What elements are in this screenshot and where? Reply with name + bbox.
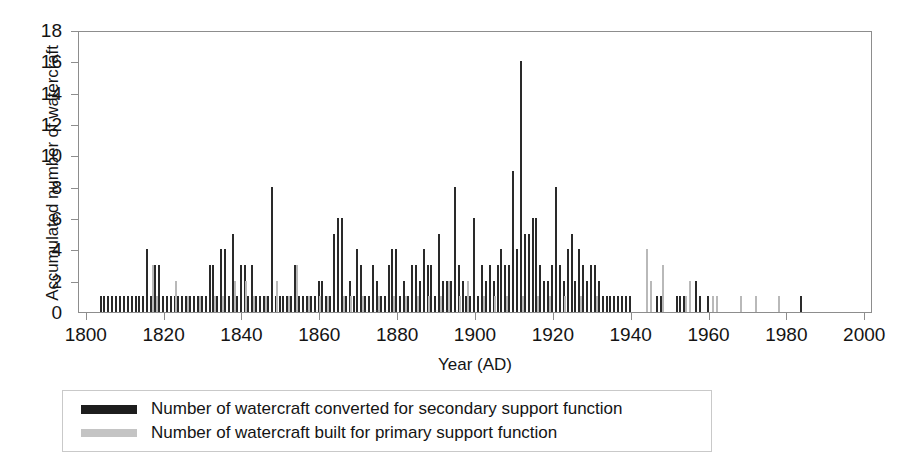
- bar-secondary-1889: [434, 296, 436, 312]
- bar-secondary-1868: [353, 296, 355, 312]
- bar-secondary-1855: [302, 296, 304, 312]
- bar-primary-1961: [712, 296, 714, 312]
- legend-label: Number of watercraft converted for secon…: [151, 399, 623, 419]
- y-axis-tick-mark: [71, 156, 78, 157]
- chart-legend: Number of watercraft converted for secon…: [62, 390, 712, 452]
- x-axis-tick-label: 1860: [279, 324, 359, 346]
- y-axis-tick-label: 10: [26, 146, 62, 165]
- bar-secondary-1852: [290, 296, 292, 312]
- bar-secondary-1824: [181, 296, 183, 312]
- x-axis-tick-mark: [475, 313, 476, 320]
- bar-secondary-1844: [259, 296, 261, 312]
- x-axis-tick-mark: [864, 313, 865, 320]
- bar-secondary-1814: [142, 296, 144, 312]
- bar-secondary-1934: [609, 296, 611, 312]
- bar-secondary-1827: [193, 296, 195, 312]
- bar-secondary-1903: [489, 265, 491, 312]
- y-axis-tick-label: 8: [26, 178, 62, 197]
- y-axis-tick-mark: [71, 62, 78, 63]
- bar-secondary-1864: [337, 218, 339, 312]
- watercraft-bar-chart: Accumulated number of watercraft 1816141…: [0, 0, 905, 454]
- bar-secondary-1876: [384, 296, 386, 312]
- bar-secondary-1839: [240, 265, 242, 312]
- x-axis-tick-mark: [241, 313, 242, 320]
- bar-secondary-1826: [189, 296, 191, 312]
- bar-secondary-1833: [216, 296, 218, 312]
- bar-secondary-1939: [629, 296, 631, 312]
- bar-secondary-1935: [613, 296, 615, 312]
- x-axis-tick-label: 1800: [46, 324, 126, 346]
- bar-secondary-1885: [419, 281, 421, 312]
- bar-primary-1972: [755, 296, 757, 312]
- bar-secondary-1983: [800, 296, 802, 312]
- bar-primary-1948: [662, 265, 664, 312]
- bar-secondary-1946: [656, 296, 658, 312]
- bar-secondary-1936: [617, 296, 619, 312]
- bar-secondary-1857: [310, 296, 312, 312]
- bar-secondary-1932: [602, 296, 604, 312]
- bar-secondary-1883: [411, 265, 413, 312]
- y-axis-tick-mark: [71, 94, 78, 95]
- x-axis-tick-mark: [319, 313, 320, 320]
- y-axis-tick-label: 18: [26, 21, 62, 40]
- bar-secondary-1957: [699, 296, 701, 312]
- bar-secondary-1909: [512, 171, 514, 312]
- x-axis-tick-label: 1980: [746, 324, 826, 346]
- bar-secondary-1952: [679, 296, 681, 312]
- bar-secondary-1803: [100, 296, 102, 312]
- bar-secondary-1900: [477, 296, 479, 312]
- bar-secondary-1925: [574, 281, 576, 312]
- legend-label: Number of watercraft built for primary s…: [151, 423, 557, 443]
- bar-secondary-1896: [462, 281, 464, 312]
- bar-secondary-1850: [282, 296, 284, 312]
- x-axis-tick-mark: [786, 313, 787, 320]
- bar-secondary-1831: [209, 265, 211, 312]
- bar-secondary-1843: [255, 296, 257, 312]
- bar-primary-1962: [716, 296, 718, 312]
- bar-secondary-1880: [399, 296, 401, 312]
- x-axis-tick-label: 1840: [201, 324, 281, 346]
- bar-secondary-1882: [407, 296, 409, 312]
- bar-secondary-1951: [676, 296, 678, 312]
- bar-secondary-1805: [107, 296, 109, 312]
- y-axis-tick-label: 2: [26, 272, 62, 291]
- bar-secondary-1879: [395, 249, 397, 312]
- bar-secondary-1902: [485, 281, 487, 312]
- y-axis-tick-mark: [71, 282, 78, 283]
- plot-area: [78, 31, 872, 313]
- bar-primary-1968: [740, 296, 742, 312]
- bar-secondary-1908: [508, 265, 510, 312]
- bar-secondary-1911: [520, 61, 522, 312]
- bar-secondary-1933: [606, 296, 608, 312]
- bar-secondary-1836: [228, 296, 230, 312]
- bar-secondary-1820: [166, 296, 168, 312]
- bar-secondary-1819: [162, 296, 164, 312]
- bar-secondary-1872: [368, 296, 370, 312]
- x-axis-tick-label: 1820: [124, 324, 204, 346]
- bar-secondary-1810: [127, 296, 129, 312]
- bar-secondary-1804: [103, 296, 105, 312]
- bar-secondary-1811: [131, 296, 133, 312]
- bar-secondary-1912: [524, 234, 526, 312]
- bar-secondary-1927: [582, 265, 584, 312]
- bar-primary-1945: [650, 281, 652, 312]
- bar-secondary-1812: [135, 296, 137, 312]
- bar-secondary-1899: [473, 218, 475, 312]
- bar-secondary-1959: [707, 296, 709, 312]
- bar-secondary-1858: [314, 296, 316, 312]
- x-axis-tick-mark: [631, 313, 632, 320]
- bar-secondary-1938: [625, 296, 627, 312]
- x-axis-tick-mark: [164, 313, 165, 320]
- bar-secondary-1919: [551, 265, 553, 312]
- bar-secondary-1913: [528, 234, 530, 312]
- bar-secondary-1862: [329, 296, 331, 312]
- y-axis-tick-label: 16: [26, 52, 62, 71]
- bar-secondary-1829: [201, 296, 203, 312]
- y-axis-tick-label: 6: [26, 209, 62, 228]
- bar-secondary-1823: [177, 296, 179, 312]
- bar-primary-1944: [646, 249, 648, 312]
- bar-secondary-1866: [345, 296, 347, 312]
- bar-secondary-1905: [497, 265, 499, 312]
- bar-secondary-1809: [123, 296, 125, 312]
- bar-secondary-1886: [423, 249, 425, 312]
